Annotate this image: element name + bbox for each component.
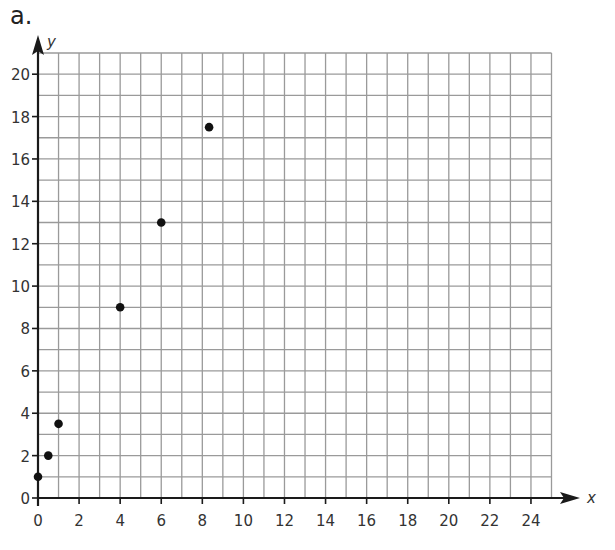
x-tick-label: 2 bbox=[74, 512, 84, 530]
y-tick-label: 18 bbox=[11, 109, 30, 127]
y-tick-label: 2 bbox=[20, 448, 30, 466]
x-tick-label: 20 bbox=[439, 512, 458, 530]
x-tick-label: 8 bbox=[198, 512, 208, 530]
x-tick-label: 18 bbox=[398, 512, 417, 530]
y-tick-label: 0 bbox=[20, 490, 30, 508]
x-tick-label: 4 bbox=[115, 512, 125, 530]
chart: a. xy02468101214161820222402468101214161… bbox=[0, 0, 615, 550]
data-point bbox=[157, 218, 166, 227]
y-tick-label: 8 bbox=[20, 320, 30, 338]
part-label: a. bbox=[10, 2, 32, 30]
y-tick-label: 10 bbox=[11, 278, 30, 296]
x-tick-label: 22 bbox=[480, 512, 499, 530]
x-tick-label: 12 bbox=[275, 512, 294, 530]
x-axis-label: x bbox=[586, 489, 596, 507]
y-tick-label: 16 bbox=[11, 151, 30, 169]
x-tick-label: 10 bbox=[234, 512, 253, 530]
y-axis-label: y bbox=[46, 33, 57, 51]
y-tick-label: 14 bbox=[11, 193, 30, 211]
y-tick-label: 12 bbox=[11, 236, 30, 254]
data-point bbox=[34, 473, 43, 482]
y-tick-label: 4 bbox=[20, 405, 30, 423]
x-tick-label: 6 bbox=[156, 512, 166, 530]
x-tick-label: 16 bbox=[357, 512, 376, 530]
y-tick-label: 20 bbox=[11, 66, 30, 84]
data-point bbox=[54, 420, 63, 429]
y-tick-label: 6 bbox=[20, 363, 30, 381]
scatter-plot: xy02468101214161820222402468101214161820 bbox=[0, 0, 615, 550]
data-point bbox=[44, 451, 53, 460]
x-tick-label: 0 bbox=[33, 512, 43, 530]
x-tick-label: 24 bbox=[521, 512, 540, 530]
data-point bbox=[116, 303, 125, 312]
data-point bbox=[205, 123, 214, 132]
x-tick-label: 14 bbox=[316, 512, 335, 530]
